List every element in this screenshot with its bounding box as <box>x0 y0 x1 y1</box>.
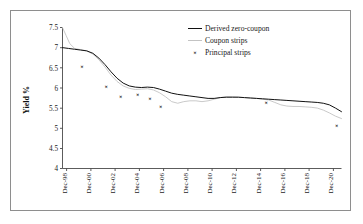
x-tick-label: Dec-06 <box>158 173 166 194</box>
legend-label-principal-strips: Principal strips <box>205 48 251 57</box>
y-tick-label: 4 <box>54 165 58 173</box>
legend: Derived zero-coupon Coupon strips × Prin… <box>188 24 270 57</box>
legend-label-derived-zero-coupon: Derived zero-coupon <box>205 24 270 33</box>
x-tick-label: Dec-20 <box>327 173 335 194</box>
y-tick-labels: 7.5 7 6.5 6 5.5 5 4.5 4 <box>49 24 58 173</box>
y-tick-label: 5.5 <box>49 105 58 113</box>
x-tick-label: Dec-16 <box>279 173 287 194</box>
figure-root: Yield % 7.5 7 6.5 6 5.5 5 4.5 4 <box>0 0 363 224</box>
series-line-coupon-strips <box>63 28 342 119</box>
y-tick-label: 6 <box>54 85 58 93</box>
y-tick-label: 7.5 <box>49 24 58 32</box>
series-line-derived-zero-coupon <box>63 48 342 112</box>
x-tick-label: Dec-02 <box>109 173 117 194</box>
x-tick-label: Dec-12 <box>230 173 238 194</box>
data-point-marker: × <box>148 96 151 102</box>
x-tick-label: Dec-98 <box>61 173 69 194</box>
y-axis-title: Yield % <box>22 86 31 114</box>
series-markers-principal-strips: ×××××××× <box>80 64 338 128</box>
x-tick-label: Dec-14 <box>255 173 263 194</box>
data-point-marker: × <box>104 84 107 90</box>
x-tick-label: Dec-18 <box>303 173 311 194</box>
x-tick-label: Dec-04 <box>133 173 141 194</box>
data-point-marker: × <box>265 100 268 106</box>
data-point-marker: × <box>119 94 122 100</box>
data-point-marker: × <box>159 104 162 110</box>
x-tick-label: Dec-08 <box>182 173 190 194</box>
y-tick-label: 7 <box>54 44 58 52</box>
data-point-marker: × <box>335 123 338 129</box>
y-tick-label: 5 <box>54 125 58 133</box>
data-point-marker: × <box>80 64 83 70</box>
legend-swatch-principal-strips: × <box>193 50 196 56</box>
y-axis-title-text: Yield % <box>22 86 31 114</box>
x-tick-label: Dec-00 <box>85 173 93 194</box>
y-tick-label: 4.5 <box>49 145 58 153</box>
yield-curve-chart: Yield % 7.5 7 6.5 6 5.5 5 4.5 4 <box>0 0 363 224</box>
y-tick-label: 6.5 <box>49 65 58 73</box>
x-tick-labels: Dec-98 Dec-00 Dec-02 Dec-04 Dec-06 Dec-0… <box>61 173 336 194</box>
data-point-marker: × <box>136 92 139 98</box>
legend-label-coupon-strips: Coupon strips <box>205 36 247 45</box>
x-tick-label: Dec-10 <box>206 173 214 194</box>
